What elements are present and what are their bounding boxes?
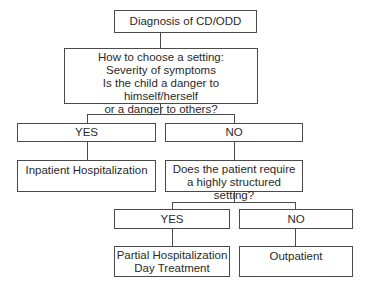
node-inpatient: Inpatient Hospitalization — [17, 160, 156, 192]
inpatient-label: Inpatient Hospitalization — [18, 164, 155, 177]
node-outpatient: Outpatient — [239, 246, 353, 277]
connector-question1-split — [87, 114, 235, 115]
node-no-2: NO — [239, 209, 353, 229]
node-partial-hospitalization: Partial Hospitalization Day Treatment — [114, 246, 230, 277]
question1-line-2: Severity of symptoms — [65, 64, 257, 77]
connector-to-no1 — [234, 114, 235, 123]
question1-line-1: How to choose a setting: — [65, 51, 257, 64]
node-diagnosis-label: Diagnosis of CD/ODD — [115, 11, 256, 32]
node-structured-setting: Does the patient require a highly struct… — [165, 160, 303, 192]
node-yes-2: YES — [114, 209, 230, 229]
partial-line-2: Day Treatment — [115, 262, 229, 275]
outpatient-label: Outpatient — [240, 250, 352, 263]
no-2-label: NO — [240, 210, 352, 228]
connector-no2-to-outpatient — [295, 229, 296, 246]
no-1-label: NO — [166, 124, 302, 141]
connector-question2-split — [172, 202, 296, 203]
question2-line-1: Does the patient require — [166, 163, 302, 176]
node-choose-setting: How to choose a setting: Severity of sym… — [64, 48, 258, 104]
connector-root-to-question — [160, 33, 161, 48]
connector-no1-to-question2 — [234, 142, 235, 160]
yes-1-label: YES — [18, 124, 155, 141]
connector-to-yes1 — [87, 114, 88, 123]
question1-line-3: Is the child a danger to himself/herself — [65, 77, 257, 103]
node-diagnosis: Diagnosis of CD/ODD — [114, 10, 257, 33]
yes-2-label: YES — [115, 210, 229, 228]
partial-line-1: Partial Hospitalization — [115, 249, 229, 262]
connector-yes2-to-partial — [172, 229, 173, 246]
connector-yes1-to-inpatient — [87, 142, 88, 160]
connector-to-no2 — [295, 202, 296, 209]
connector-to-yes2 — [172, 202, 173, 209]
node-yes-1: YES — [17, 123, 156, 142]
node-no-1: NO — [165, 123, 303, 142]
